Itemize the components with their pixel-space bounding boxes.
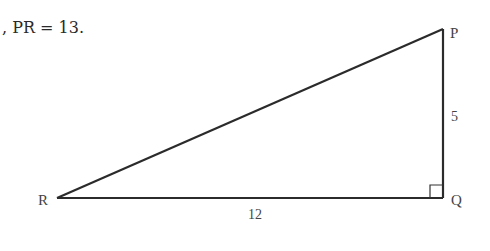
right-triangle-figure: P Q R 5 12 bbox=[0, 0, 490, 251]
side-label-rq: 12 bbox=[248, 207, 262, 222]
vertex-label-r: R bbox=[38, 192, 48, 208]
side-label-pq: 5 bbox=[451, 109, 458, 124]
vertex-label-q: Q bbox=[451, 192, 462, 208]
diagram-canvas: , PR = 13. P Q R 5 12 bbox=[0, 0, 490, 251]
right-angle-marker bbox=[430, 185, 443, 198]
vertex-label-p: P bbox=[450, 25, 458, 41]
side-pr bbox=[57, 29, 443, 198]
